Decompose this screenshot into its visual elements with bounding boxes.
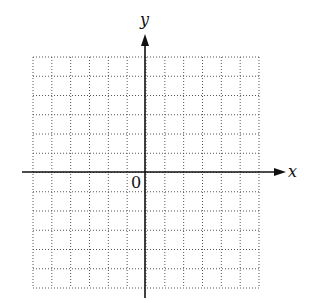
x-axis-label: x (288, 162, 297, 181)
origin-label: 0 (131, 173, 141, 192)
y-axis-label: y (140, 10, 149, 29)
y-axis-arrow-icon (141, 34, 149, 46)
x-axis-arrow-icon (274, 168, 286, 176)
coordinate-plane: y x 0 (0, 0, 315, 303)
grid-svg (0, 0, 315, 303)
